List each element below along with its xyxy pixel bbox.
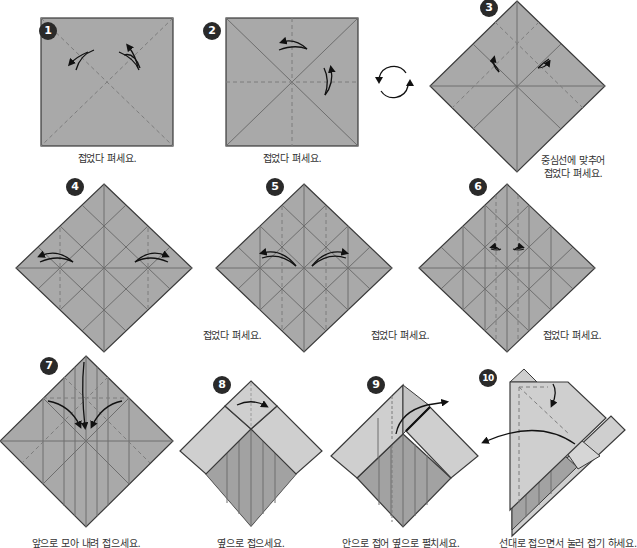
step-10-figure bbox=[484, 369, 625, 536]
step-number-badge: 9 bbox=[367, 376, 385, 394]
turn-over-icon bbox=[375, 66, 414, 97]
step-8-figure bbox=[180, 381, 322, 526]
step-3-figure bbox=[430, 1, 605, 172]
step-3-caption-line2: 접었다 펴세요. bbox=[544, 165, 603, 180]
step-1-figure bbox=[41, 18, 173, 146]
step-2-caption: 접었다 펴세요. bbox=[263, 150, 322, 165]
step-2-figure bbox=[226, 18, 358, 146]
step-9-figure bbox=[331, 385, 478, 527]
step-6-caption: 접었다 펴세요. bbox=[543, 327, 602, 342]
step-4-figure bbox=[16, 184, 192, 352]
step-number-badge: 7 bbox=[40, 357, 58, 375]
step-number-badge: 1 bbox=[39, 22, 57, 40]
step-7-figure bbox=[0, 356, 173, 527]
step-number-badge: 2 bbox=[203, 22, 221, 40]
step-number-badge: 5 bbox=[266, 178, 284, 196]
step-8-caption: 옆으로 접으세요. bbox=[217, 535, 285, 548]
step-9-caption: 안으로 접어 옆으로 펼치세요. bbox=[342, 535, 460, 548]
step-number-badge: 4 bbox=[66, 178, 84, 196]
step-7-caption: 앞으로 모아 내려 접으세요. bbox=[32, 535, 141, 548]
step-10-caption: 선대로 접으면서 눌러 접기 하세요. bbox=[499, 535, 637, 548]
step-number-badge: 8 bbox=[213, 376, 231, 394]
step-number-badge: 10 bbox=[479, 369, 497, 387]
step-5-caption: 접었다 펴세요. bbox=[371, 327, 430, 342]
step-4-caption: 접었다 펴세요. bbox=[203, 327, 262, 342]
step-number-badge: 6 bbox=[469, 178, 487, 196]
step-1-caption: 접었다 펴세요. bbox=[78, 150, 137, 165]
